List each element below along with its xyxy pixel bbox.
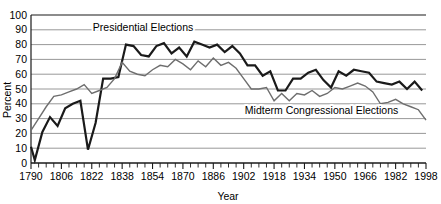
- y-tick-label: 20: [15, 127, 27, 139]
- turnout-line-chart: 0102030405060708090100 17901806182218381…: [0, 0, 441, 204]
- series-annotation: Presidential Elections: [93, 21, 193, 33]
- y-tick-label: 50: [15, 83, 27, 95]
- x-tick-label: 1870: [171, 170, 195, 182]
- y-tick-label: 70: [15, 53, 27, 65]
- x-tick-label: 1806: [50, 170, 74, 182]
- y-axis-title: Percent: [1, 82, 13, 118]
- x-tick-label: 1934: [293, 170, 317, 182]
- y-tick-label: 90: [15, 23, 27, 35]
- x-tick-label: 1902: [232, 170, 256, 182]
- x-tick-label: 1854: [141, 170, 165, 182]
- y-tick-label: 60: [15, 68, 27, 80]
- x-tick-label: 1838: [110, 170, 134, 182]
- x-tick-label: 1950: [323, 170, 347, 182]
- x-tick-label: 1918: [262, 170, 286, 182]
- series-annotation: Midterm Congressional Elections: [245, 104, 398, 116]
- x-tick-label: 1998: [414, 170, 438, 182]
- x-tick-label: 1790: [19, 170, 43, 182]
- x-tick-label: 1886: [202, 170, 226, 182]
- y-tick-label: 0: [21, 157, 27, 169]
- x-axis-title: Year: [217, 190, 239, 202]
- chart-canvas: 0102030405060708090100 17901806182218381…: [0, 0, 441, 204]
- y-tick-label: 40: [15, 97, 27, 109]
- x-tick-label: 1966: [354, 170, 378, 182]
- x-tick-label: 1982: [384, 170, 408, 182]
- x-tick-label: 1822: [80, 170, 104, 182]
- y-tick-label: 80: [15, 38, 27, 50]
- y-tick-label: 10: [15, 142, 27, 154]
- y-tick-label: 100: [9, 9, 27, 21]
- y-tick-label: 30: [15, 112, 27, 124]
